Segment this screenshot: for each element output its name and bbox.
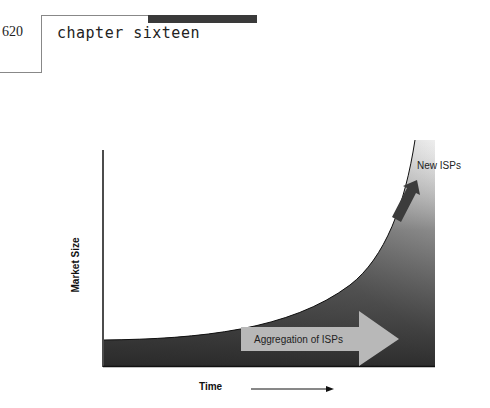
y-axis-label: Market Size (70, 237, 81, 292)
aggregation-label: Aggregation of ISPs (254, 334, 343, 345)
market-growth-figure (0, 0, 490, 408)
x-axis-label: Time (199, 381, 222, 392)
time-arrow-head-icon (326, 386, 334, 392)
new-isps-label: New ISPs (417, 160, 461, 171)
